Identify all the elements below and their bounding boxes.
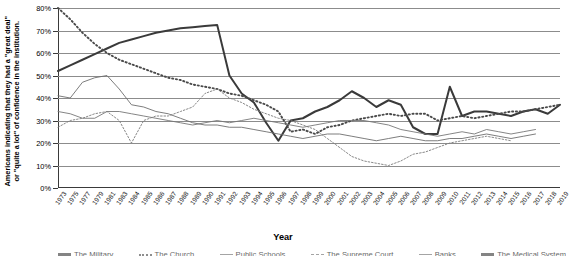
y-axis-title-line-1: Americans indicating that they had a "gr…: [3, 3, 12, 199]
plot-area: 0%10%20%30%40%50%60%70%80%: [58, 8, 560, 188]
x-axis-labels: 1973197519771979198119831984198519861987…: [58, 190, 560, 234]
legend-label: The Medical System: [497, 250, 566, 256]
x-axis-tick-label: 2004: [372, 190, 386, 206]
x-axis-tick-label: 2013: [482, 190, 496, 206]
x-axis-tick-label: 1994: [249, 190, 263, 206]
y-axis-tick-label: 50%: [36, 71, 51, 80]
legend-item: The Military: [58, 250, 113, 256]
legend-swatch: [139, 254, 152, 256]
x-axis-title: Year: [0, 232, 566, 242]
x-axis-tick-label: 1998: [298, 190, 312, 206]
x-axis-tick-label: 2012: [470, 190, 484, 206]
y-axis-tick-label: 40%: [36, 94, 51, 103]
x-axis-tick-label: 2018: [543, 190, 557, 206]
x-axis-tick-label: 1975: [66, 190, 80, 206]
x-axis-tick-label: 1992: [225, 190, 239, 206]
legend-label: The Military: [74, 250, 113, 256]
x-axis-tick-label: 1990: [201, 190, 215, 206]
series-lines: [58, 8, 560, 188]
x-axis-tick-label: 2014: [494, 190, 508, 206]
series-line: [58, 89, 511, 166]
x-axis-tick-label: 1979: [90, 190, 104, 206]
x-axis-tick-label: 1993: [237, 190, 251, 206]
x-axis-tick-label: 1983: [115, 190, 129, 206]
y-axis-tick-label: 70%: [36, 26, 51, 35]
x-axis-tick-label: 1995: [262, 190, 276, 206]
y-axis-tick-label: 30%: [36, 116, 51, 125]
legend-swatch: [481, 253, 494, 256]
y-axis-tick-label: 20%: [36, 139, 51, 148]
x-axis-tick-label: 1996: [274, 190, 288, 206]
legend-swatch: [419, 254, 432, 255]
x-axis-tick-label: 1984: [127, 190, 141, 206]
x-axis-tick-label: 1981: [103, 190, 117, 206]
x-axis-tick-label: 2015: [507, 190, 521, 206]
x-axis-tick-label: 2010: [445, 190, 459, 206]
x-axis-tick-label: 2006: [396, 190, 410, 206]
y-axis-tick-label: 60%: [36, 49, 51, 58]
legend-item: The Supreme Court: [311, 250, 394, 256]
x-axis-tick-label: 2005: [384, 190, 398, 206]
x-axis-tick-label: 2003: [360, 190, 374, 206]
legend-item: Banks: [419, 250, 456, 256]
legend-swatch: [220, 254, 233, 255]
legend-swatch: [311, 254, 324, 255]
x-axis-tick-label: 2000: [323, 190, 337, 206]
x-axis-tick-label: 2011: [458, 190, 472, 206]
x-axis-tick-label: 2019: [556, 190, 570, 206]
y-axis-title-line-2: or "quite a lot" of confidence in the in…: [12, 3, 21, 199]
x-axis-tick-label: 2016: [519, 190, 533, 206]
y-axis-tick-label: 80%: [36, 4, 51, 13]
legend-label: The Church: [155, 250, 195, 256]
x-axis-tick-label: 2002: [347, 190, 361, 206]
y-axis-title: Americans indicating that they had a "gr…: [3, 3, 21, 199]
x-axis-tick-label: 1988: [176, 190, 190, 206]
legend-item: Public Schools: [220, 250, 286, 256]
x-axis-tick-label: 1999: [311, 190, 325, 206]
series-line: [58, 25, 560, 141]
x-axis-tick-label: 2008: [421, 190, 435, 206]
legend-label: Banks: [435, 250, 456, 256]
legend-label: Public Schools: [236, 250, 286, 256]
y-axis-tick-label: 0%: [40, 184, 51, 193]
x-axis-tick-label: 2009: [433, 190, 447, 206]
legend-item: The Church: [139, 250, 195, 256]
x-axis-tick-label: 2001: [335, 190, 349, 206]
x-axis-tick-label: 1989: [188, 190, 202, 206]
y-axis-tick-label: 10%: [36, 161, 51, 170]
x-axis-tick-label: 1986: [152, 190, 166, 206]
legend-item: The Medical System: [481, 250, 566, 256]
x-axis-tick-label: 2017: [531, 190, 545, 206]
y-axis-tick: [53, 188, 58, 189]
legend-label: The Supreme Court: [327, 250, 394, 256]
x-axis-tick-label: 1985: [139, 190, 153, 206]
legend-swatch: [58, 253, 71, 256]
x-axis-tick-label: 1987: [164, 190, 178, 206]
x-axis-tick-label: 1997: [286, 190, 300, 206]
chart-legend: The MilitaryThe ChurchPublic SchoolsThe …: [58, 250, 566, 256]
x-axis-tick-label: 2007: [409, 190, 423, 206]
x-axis-tick-label: 1973: [54, 190, 68, 206]
x-axis-tick-label: 1991: [213, 190, 227, 206]
x-axis-tick-label: 1977: [78, 190, 92, 206]
